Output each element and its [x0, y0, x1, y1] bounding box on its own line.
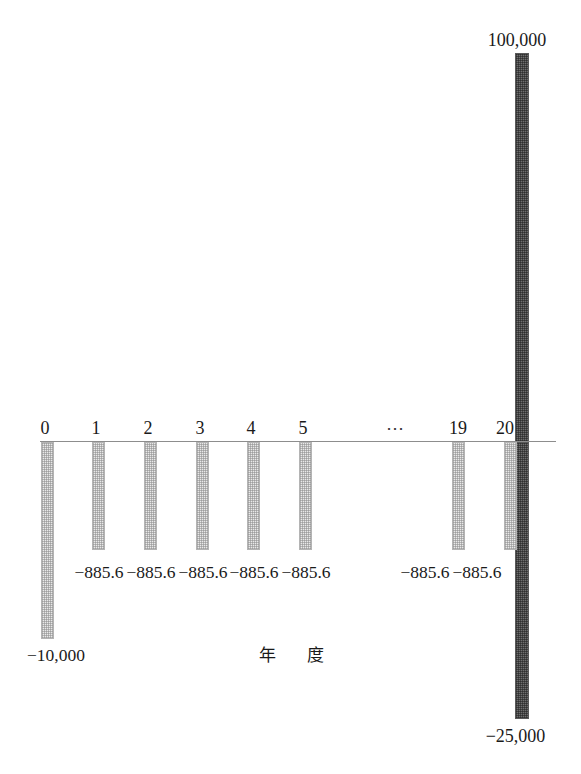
bar-year19 [452, 442, 465, 550]
tick-label-20: 20 [488, 418, 522, 438]
bar-year4 [247, 442, 260, 550]
bar-year2 [144, 442, 157, 550]
bar-year20-positive [515, 53, 529, 442]
tick-label-0: 0 [30, 418, 60, 438]
bar-year1 [92, 442, 105, 550]
value-label-year0: −10,000 [10, 645, 102, 665]
value-label-year5: −885.6 [269, 562, 343, 582]
value-label-minus25000: −25,000 [458, 726, 573, 746]
tick-label-5: 5 [288, 418, 318, 438]
bar-year5 [299, 442, 312, 550]
tick-label-4: 4 [236, 418, 266, 438]
tick-label-19: 19 [441, 418, 475, 438]
tick-label-ellipsis: ⋯ [379, 418, 411, 438]
x-axis-line [40, 441, 556, 442]
bar-year0 [41, 442, 54, 639]
tick-label-2: 2 [133, 418, 163, 438]
bar-year20-annual [504, 442, 517, 550]
x-axis-title: 年 度 [250, 645, 340, 665]
tick-label-3: 3 [185, 418, 215, 438]
value-label-year20: −885.6 [440, 562, 514, 582]
tick-label-1: 1 [81, 418, 111, 438]
bar-year20-negative [515, 442, 529, 719]
value-label-100000: 100,000 [462, 30, 572, 50]
cash-flow-bar-chart: 100,000 −25,000 0 1 2 3 4 5 ⋯ 19 20 −885… [0, 0, 581, 774]
bar-year3 [196, 442, 209, 550]
